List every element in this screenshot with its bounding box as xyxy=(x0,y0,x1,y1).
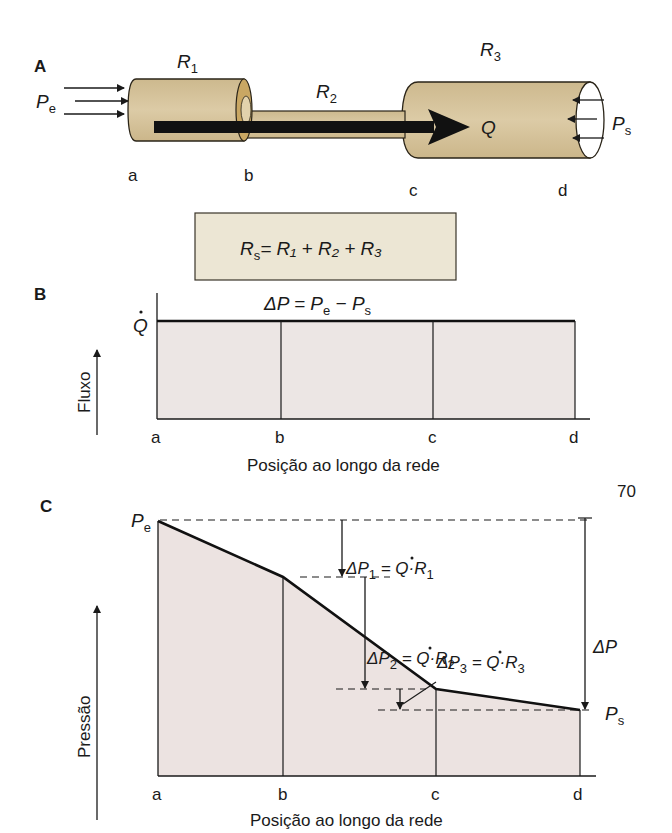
tube-r1-inner xyxy=(241,96,251,124)
flow-area xyxy=(157,321,575,419)
point-b-label: b xyxy=(244,166,253,185)
pressure-x-caption: Posição ao longo da rede xyxy=(250,811,443,830)
dp-total-label: ΔP xyxy=(592,637,617,657)
tube-r3-opening xyxy=(576,82,604,158)
figure-canvas: A Pe Q Ps R1 R2 R3 xyxy=(0,0,672,833)
panel-a-label: A xyxy=(34,57,46,76)
panel-c: C 70 Pe Ps ΔP1 = Q·R1 ΔP2 = Q·R2 xyxy=(40,482,636,830)
x-tick-c: c xyxy=(431,785,440,804)
inlet-arrows-icon xyxy=(64,88,128,114)
dp3-label: ΔP3 = Q·R3 xyxy=(436,653,525,676)
page-number: 70 xyxy=(617,482,636,501)
flow-y-label: Fluxo xyxy=(75,371,94,413)
pe-label: Pe xyxy=(131,510,151,535)
point-c-label: c xyxy=(409,181,418,200)
panel-b-label: B xyxy=(34,285,46,304)
pressure-y-label: Pressão xyxy=(75,696,94,758)
x-tick-c: c xyxy=(428,428,437,447)
panel-c-label: C xyxy=(40,497,52,516)
segment-r1-label: R1 xyxy=(177,51,198,76)
x-tick-d: d xyxy=(573,785,582,804)
pressure-difference-equation: ΔP = Pe − Ps xyxy=(263,293,372,318)
dp1-label: ΔP1 = Q·R1 xyxy=(345,559,434,582)
point-a-label: a xyxy=(128,166,138,185)
x-tick-d: d xyxy=(569,428,578,447)
x-tick-a: a xyxy=(152,785,162,804)
segment-r2-label: R2 xyxy=(316,81,337,106)
x-tick-a: a xyxy=(151,428,161,447)
flow-label: Q xyxy=(481,117,496,138)
panel-a: A Pe Q Ps R1 R2 R3 xyxy=(34,39,632,352)
q-dot-icon xyxy=(139,310,142,313)
tube-r3 xyxy=(402,82,590,158)
flow-x-caption: Posição ao longo da rede xyxy=(247,456,440,475)
x-tick-b: b xyxy=(278,785,287,804)
pressure-out-label: Ps xyxy=(612,113,632,138)
flow-marker: Q xyxy=(133,315,148,336)
point-d-label: d xyxy=(558,181,567,200)
segment-r3-label: R3 xyxy=(480,39,501,64)
x-tick-b: b xyxy=(275,428,284,447)
pressure-in-label: Pe xyxy=(36,91,56,116)
ps-label: Ps xyxy=(605,703,625,728)
